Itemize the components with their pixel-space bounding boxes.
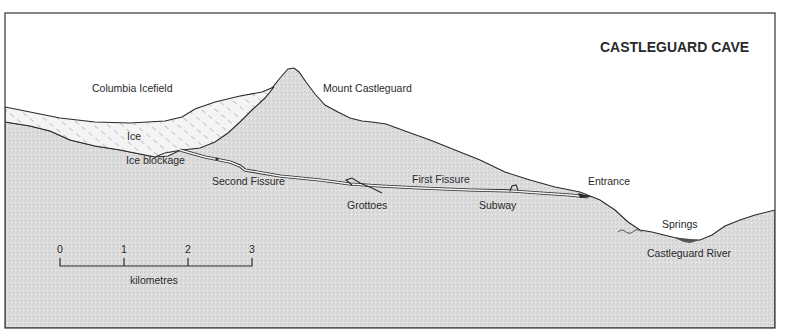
scale-tick-2: 2 <box>185 243 191 255</box>
label-grottoes: Grottoes <box>347 199 387 211</box>
label-ice: Ice <box>127 130 141 142</box>
label-ice-blockage: Ice blockage <box>126 154 185 166</box>
label-second-fissure: Second Fissure <box>212 175 285 187</box>
label-columbia-icefield: Columbia Icefield <box>92 82 173 94</box>
scale-unit: kilometres <box>130 274 178 286</box>
scale-tick-3: 3 <box>249 243 255 255</box>
ice-blockage-marker <box>215 157 218 160</box>
label-entrance: Entrance <box>588 175 630 187</box>
scale-tick-0: 0 <box>57 243 63 255</box>
label-springs: Springs <box>662 218 698 230</box>
rock-mass <box>5 68 775 328</box>
scale-tick-1: 1 <box>121 243 127 255</box>
label-subway: Subway <box>479 199 517 211</box>
label-castleguard-river: Castleguard River <box>647 247 732 259</box>
diagram-title: CASTLEGUARD CAVE <box>600 39 749 55</box>
label-mount-castleguard: Mount Castleguard <box>323 82 412 94</box>
label-first-fissure: First Fissure <box>412 173 470 185</box>
cave-cross-section-diagram: CASTLEGUARD CAVE Columbia Icefield Mount… <box>0 0 789 335</box>
